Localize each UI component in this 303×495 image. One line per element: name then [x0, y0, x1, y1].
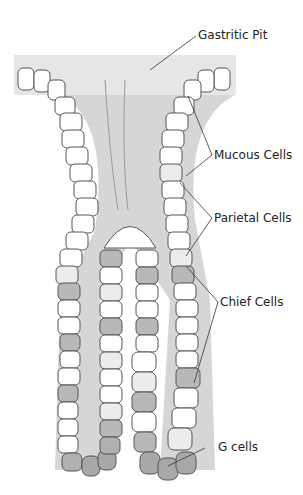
- label-parietal-cells: Parietal Cells: [214, 211, 292, 225]
- gastric-pit-diagram: [0, 0, 303, 495]
- label-gastric-pit: Gastritic Pit: [198, 28, 267, 42]
- label-g-cells: G cells: [218, 440, 258, 454]
- label-chief-cells: Chief Cells: [220, 295, 283, 309]
- label-mucous-cells: Mucous Cells: [214, 148, 292, 162]
